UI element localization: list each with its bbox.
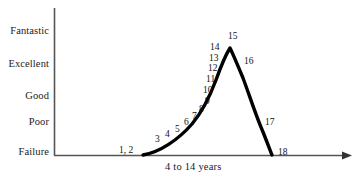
y-axis-label-good: Good <box>0 90 49 101</box>
point-label-4: 4 <box>165 130 170 140</box>
point-label-5: 5 <box>175 125 180 135</box>
y-axis-label-excellent: Excellent <box>0 58 49 69</box>
point-label-6: 6 <box>184 118 189 128</box>
y-axis-label-poor: Poor <box>0 116 49 127</box>
point-label-16: 16 <box>244 57 254 67</box>
chart-plot-area <box>0 0 358 183</box>
point-label-14: 14 <box>210 43 220 53</box>
point-label-9: 9 <box>205 97 210 107</box>
point-label-8: 8 <box>199 105 204 115</box>
point-label-7: 7 <box>192 112 197 122</box>
point-label-15: 15 <box>228 32 238 42</box>
point-label-12: 12 <box>208 64 218 74</box>
y-axis-label-failure: Failure <box>0 146 49 157</box>
point-label-17: 17 <box>265 118 275 128</box>
point-label-11: 11 <box>206 75 215 85</box>
point-label-1-2: 1, 2 <box>119 146 133 156</box>
point-label-13: 13 <box>209 54 219 64</box>
x-axis-caption: 4 to 14 years <box>165 161 222 172</box>
point-label-18: 18 <box>278 148 288 158</box>
chart-container: Fantastic Excellent Good Poor Failure 1,… <box>0 0 358 183</box>
point-label-10: 10 <box>203 86 213 96</box>
x-axis-arrowhead <box>342 152 352 160</box>
y-axis-label-fantastic: Fantastic <box>0 25 49 36</box>
point-label-3: 3 <box>155 135 160 145</box>
